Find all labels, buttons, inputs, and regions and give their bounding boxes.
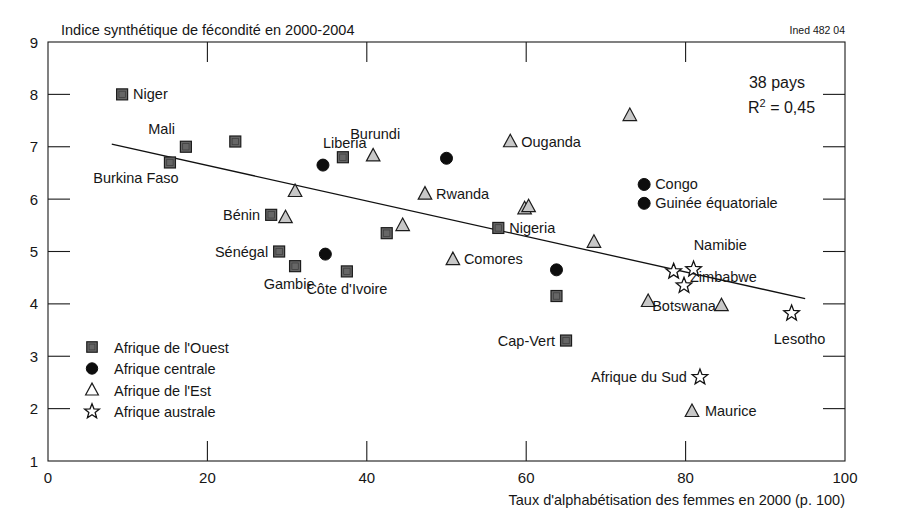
data-marker-circle bbox=[317, 159, 329, 171]
data-marker-triangle bbox=[396, 218, 410, 231]
legend-item-2[interactable] bbox=[80, 380, 260, 400]
data-marker-triangle bbox=[715, 298, 729, 311]
data-marker-square bbox=[337, 152, 348, 163]
data-marker-square bbox=[341, 266, 352, 277]
country-count-label: 38 pays bbox=[749, 74, 805, 91]
data-marker-circle bbox=[319, 248, 331, 260]
data-marker-circle bbox=[441, 152, 453, 164]
data-marker-square bbox=[381, 228, 392, 239]
y-axis-tick-label: 1 bbox=[30, 453, 38, 470]
data-point-label: Sénégal bbox=[215, 244, 268, 260]
data-point-label: Cap-Vert bbox=[498, 333, 555, 349]
data-point-label: Nigeria bbox=[509, 220, 556, 236]
data-marker-triangle bbox=[446, 252, 460, 265]
plot-title: Indice synthétique de fécondité en 2000-… bbox=[61, 22, 354, 38]
plot-area: 987654321020406080100Indice synthétique … bbox=[0, 0, 912, 522]
data-point-label: Maurice bbox=[705, 403, 757, 419]
x-axis-tick-label: 20 bbox=[199, 469, 216, 486]
data-marker-triangle bbox=[366, 148, 380, 161]
data-marker-star bbox=[666, 263, 682, 278]
data-marker-triangle bbox=[279, 210, 293, 223]
data-point-label: Rwanda bbox=[436, 186, 490, 202]
x-axis-tick-label: 80 bbox=[677, 469, 694, 486]
data-marker-square bbox=[266, 209, 277, 220]
data-point-label: Guinée équatoriale bbox=[655, 195, 778, 211]
data-point-label: Zimbabwe bbox=[690, 269, 757, 285]
data-marker-circle bbox=[638, 197, 650, 209]
data-point-label: Burundi bbox=[350, 126, 400, 142]
legend-item-3[interactable] bbox=[80, 402, 260, 422]
data-point-label: Niger bbox=[133, 86, 168, 102]
data-marker-square bbox=[561, 335, 572, 346]
data-point-label: Lesotho bbox=[774, 331, 826, 347]
data-marker-circle bbox=[550, 264, 562, 276]
credit-label: Ined 482 04 bbox=[790, 24, 846, 36]
data-marker-triangle bbox=[504, 134, 518, 147]
data-marker-circle bbox=[638, 178, 650, 190]
y-axis-tick-label: 6 bbox=[30, 191, 38, 208]
data-marker-square bbox=[290, 261, 301, 272]
x-axis-tick-label: 60 bbox=[518, 469, 535, 486]
y-axis-tick-label: 4 bbox=[30, 295, 38, 312]
data-point-label: Congo bbox=[655, 176, 698, 192]
y-axis-tick-label: 8 bbox=[30, 86, 38, 103]
x-axis-tick-label: 0 bbox=[44, 469, 52, 486]
data-point-label: Afrique du Sud bbox=[591, 369, 687, 385]
data-marker-star bbox=[784, 305, 800, 320]
data-marker-square bbox=[117, 89, 128, 100]
x-axis-tick-label: 40 bbox=[358, 469, 375, 486]
y-axis-tick-label: 3 bbox=[30, 348, 38, 365]
data-marker-triangle bbox=[623, 108, 637, 121]
data-marker-square bbox=[493, 222, 504, 233]
legend-item-0[interactable] bbox=[80, 337, 260, 357]
data-point-label: Mali bbox=[148, 121, 175, 137]
y-axis-tick-label: 2 bbox=[30, 400, 38, 417]
r-squared-label: R2 = 0,45 bbox=[748, 97, 815, 116]
data-point-label: Botswana bbox=[652, 298, 717, 314]
data-point-label: Ouganda bbox=[521, 134, 582, 150]
data-point-label: Côte d'Ivoire bbox=[306, 281, 387, 297]
y-axis-tick-label: 5 bbox=[30, 243, 38, 260]
legend-item-1[interactable] bbox=[80, 359, 260, 379]
y-axis-tick-label: 9 bbox=[30, 34, 38, 51]
data-marker-triangle bbox=[587, 235, 601, 248]
y-axis-tick-label: 7 bbox=[30, 138, 38, 155]
data-marker-star bbox=[692, 369, 708, 384]
data-point-label: Bénin bbox=[223, 207, 260, 223]
data-marker-square bbox=[164, 157, 175, 168]
data-marker-triangle bbox=[685, 404, 699, 417]
data-point-label: Comores bbox=[464, 251, 523, 267]
data-point-label: Burkina Faso bbox=[93, 170, 178, 186]
data-marker-square bbox=[274, 246, 285, 257]
data-point-label: Namibie bbox=[694, 237, 747, 253]
x-axis-title: Taux d'alphabétisation des femmes en 200… bbox=[509, 492, 845, 508]
data-marker-triangle bbox=[418, 187, 432, 200]
x-axis-tick-label: 100 bbox=[832, 469, 857, 486]
scatter-chart: 987654321020406080100Indice synthétique … bbox=[0, 0, 912, 522]
data-marker-square bbox=[551, 291, 562, 302]
data-marker-square bbox=[180, 141, 191, 152]
data-marker-square bbox=[230, 136, 241, 147]
